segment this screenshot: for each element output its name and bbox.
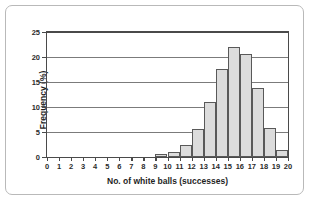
figure-frame: Frequency (%) 0510152025 012345678910111… <box>5 5 304 195</box>
x-tick-17 <box>252 157 253 161</box>
bar-14 <box>216 69 228 158</box>
x-tick-2 <box>71 157 72 161</box>
x-tick-label-4: 4 <box>93 162 97 171</box>
x-tick-12 <box>192 157 193 161</box>
x-tick-label-15: 15 <box>224 162 232 171</box>
bar-11 <box>180 145 192 158</box>
x-tick-label-20: 20 <box>284 162 292 171</box>
y-tick-5 <box>42 132 47 133</box>
x-tick-label-5: 5 <box>105 162 109 171</box>
bar-series <box>47 32 288 157</box>
x-tick-7 <box>131 157 132 161</box>
y-tick-label-15: 15 <box>32 78 40 87</box>
plot-area: 0510152025 01234567891011121314151617181… <box>46 31 289 158</box>
x-tick-8 <box>143 157 144 161</box>
bar-15 <box>228 47 240 157</box>
bar-16 <box>240 54 252 158</box>
x-tick-label-7: 7 <box>129 162 133 171</box>
y-tick-label-5: 5 <box>36 128 40 137</box>
x-tick-11 <box>180 157 181 161</box>
x-tick-label-10: 10 <box>163 162 171 171</box>
y-tick-label-0: 0 <box>36 153 40 162</box>
x-tick-16 <box>240 157 241 161</box>
x-tick-label-2: 2 <box>69 162 73 171</box>
x-tick-19 <box>276 157 277 161</box>
x-tick-15 <box>228 157 229 161</box>
x-tick-14 <box>216 157 217 161</box>
x-tick-9 <box>155 157 156 161</box>
x-tick-label-6: 6 <box>117 162 121 171</box>
y-tick-label-20: 20 <box>32 53 40 62</box>
y-tick-label-10: 10 <box>32 103 40 112</box>
y-tick-15 <box>42 82 47 83</box>
x-tick-13 <box>204 157 205 161</box>
x-tick-label-1: 1 <box>57 162 61 171</box>
y-tick-label-25: 25 <box>32 28 40 37</box>
x-tick-0 <box>47 157 48 161</box>
x-tick-label-13: 13 <box>199 162 207 171</box>
x-tick-label-14: 14 <box>212 162 220 171</box>
x-tick-label-16: 16 <box>236 162 244 171</box>
bar-19 <box>276 150 288 158</box>
bar-18 <box>264 128 276 158</box>
x-tick-label-9: 9 <box>153 162 157 171</box>
x-tick-18 <box>264 157 265 161</box>
x-tick-1 <box>59 157 60 161</box>
y-tick-20 <box>42 57 47 58</box>
x-tick-label-0: 0 <box>45 162 49 171</box>
x-tick-label-11: 11 <box>176 162 184 171</box>
x-axis-title: No. of white balls (successes) <box>46 176 289 186</box>
y-tick-25 <box>42 32 47 33</box>
bar-17 <box>252 88 264 158</box>
x-tick-3 <box>83 157 84 161</box>
x-tick-20 <box>288 157 289 161</box>
bar-13 <box>204 102 216 158</box>
x-tick-label-19: 19 <box>272 162 280 171</box>
x-tick-label-17: 17 <box>248 162 256 171</box>
bar-10 <box>168 152 180 158</box>
x-tick-6 <box>119 157 120 161</box>
bar-12 <box>192 129 204 157</box>
y-tick-10 <box>42 107 47 108</box>
x-tick-label-18: 18 <box>260 162 268 171</box>
x-tick-10 <box>168 157 169 161</box>
x-tick-4 <box>95 157 96 161</box>
x-tick-label-8: 8 <box>141 162 145 171</box>
x-tick-label-12: 12 <box>187 162 195 171</box>
bar-9 <box>155 154 167 157</box>
x-tick-5 <box>107 157 108 161</box>
x-tick-label-3: 3 <box>81 162 85 171</box>
